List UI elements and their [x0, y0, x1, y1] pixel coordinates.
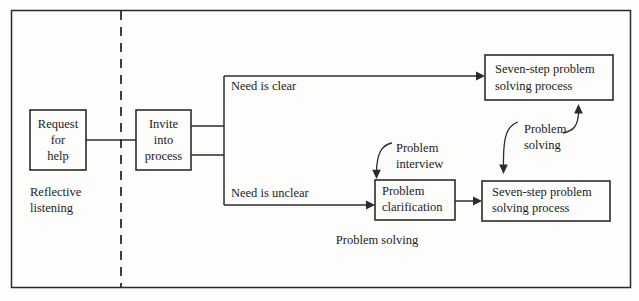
node-seven-step-process-bottom[interactable]: Seven-step problem solving process — [482, 181, 610, 221]
node-request-for-help-label-1: Request — [38, 117, 79, 131]
arrowhead-to-problem-clarification — [366, 201, 375, 210]
zone-label-reflective-listening-line-2: listening — [30, 201, 74, 215]
node-request-for-help-label-3: help — [47, 149, 69, 163]
node-request-for-help-label-2: for — [51, 133, 66, 147]
node-seven-step-process-bottom-label-2: solving process — [492, 201, 570, 215]
curve-problem-solving-down — [503, 122, 518, 165]
arrowhead-problem-solving-down — [499, 165, 508, 174]
node-seven-step-process-bottom-label-1: Seven-step problem — [492, 185, 592, 199]
node-problem-clarification-label-2: clarification — [382, 200, 443, 214]
curve-problem-interview — [377, 143, 393, 171]
node-seven-step-process-top-label-1: Seven-step problem — [495, 62, 595, 76]
arrowhead-to-seven-step-bottom — [473, 197, 482, 206]
edge-label-need-is-unclear: Need is unclear — [231, 186, 310, 200]
arrowhead-to-seven-step-top — [476, 72, 485, 81]
node-problem-clarification[interactable]: Problem clarification — [375, 180, 455, 220]
node-invite-into-process[interactable]: Invite into process — [136, 110, 191, 170]
annotation-problem-interview-line-2: interview — [396, 157, 443, 171]
figure-canvas: Request for help Invite into process Pro… — [0, 0, 639, 301]
zone-label-problem-solving: Problem solving — [336, 233, 419, 247]
edge-label-need-is-clear: Need is clear — [231, 79, 297, 93]
annotation-problem-solving-line-2: solving — [524, 138, 562, 152]
flowchart-diagram: Request for help Invite into process Pro… — [0, 0, 639, 301]
node-invite-into-process-label-1: Invite — [149, 117, 179, 131]
arrowhead-problem-interview — [372, 170, 381, 179]
node-invite-into-process-label-2: into — [154, 133, 173, 147]
annotation-problem-interview-line-1: Problem — [396, 141, 439, 155]
node-problem-clarification-label-1: Problem — [382, 184, 425, 198]
node-seven-step-process-top[interactable]: Seven-step problem solving process — [485, 55, 613, 100]
annotation-problem-solving-line-1: Problem — [524, 122, 567, 136]
node-invite-into-process-label-3: process — [145, 149, 183, 163]
arrowhead-problem-solving-up — [574, 104, 583, 113]
zone-label-reflective-listening-line-1: Reflective — [30, 185, 82, 199]
node-request-for-help[interactable]: Request for help — [30, 110, 86, 170]
node-seven-step-process-top-label-2: solving process — [495, 79, 573, 93]
